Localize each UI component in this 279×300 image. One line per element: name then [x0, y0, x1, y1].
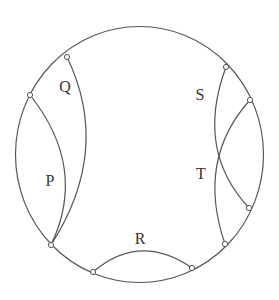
- label-q: Q: [59, 78, 71, 95]
- circle-arc-diagram: Q P R S T: [0, 0, 279, 300]
- node-r-right: [189, 265, 194, 270]
- label-r: R: [135, 230, 146, 247]
- arc-r: [93, 251, 192, 272]
- label-s: S: [196, 86, 205, 103]
- label-p: P: [46, 172, 55, 189]
- node-bottom-right: [222, 241, 227, 246]
- node-right-upper: [247, 97, 252, 102]
- node-r-left: [90, 269, 95, 274]
- node-right-lower: [246, 205, 251, 210]
- node-p-top: [27, 92, 32, 97]
- node-bottom-left: [48, 242, 53, 247]
- arc-s: [215, 67, 249, 208]
- arc-p: [30, 95, 65, 245]
- node-q-top: [64, 54, 69, 59]
- label-t: T: [196, 165, 206, 182]
- node-s-top: [223, 64, 228, 69]
